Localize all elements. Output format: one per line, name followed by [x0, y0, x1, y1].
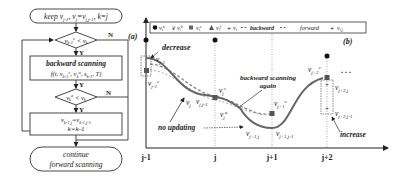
no-updating-dotted-arrow [204, 127, 243, 128]
svg-text:vja: vja [220, 110, 228, 120]
backward-again-label-1: backward scanning [240, 74, 297, 82]
increase-arrow [332, 117, 340, 132]
backward-again-pointer [238, 90, 262, 108]
svg-text:vj: vj [186, 98, 191, 108]
legend-item: forward [300, 25, 320, 31]
backward-again-label-2: again [260, 82, 276, 90]
point-u [325, 54, 330, 59]
plus-gray-icon: + [325, 81, 329, 89]
svg-text:vjc: vjc [219, 86, 227, 96]
end-text-2: forward scanning [50, 160, 103, 169]
update-k-text: k=k-1 [68, 125, 85, 133]
no-updating-arrow [170, 98, 184, 122]
circle-icon [153, 25, 158, 30]
ellipsis: . . . [341, 66, 351, 75]
point-c [325, 75, 330, 80]
x-tick: j+2 [320, 153, 332, 162]
x-tick: j-1 [140, 153, 150, 162]
svg-text:vj+2,j-1: vj+2,j-1 [335, 109, 352, 120]
svg-text:vj+2,j: vj+2,j [335, 83, 349, 94]
no-updating-label: no updating [158, 123, 196, 132]
x-ticks: j-1 j j+1 j+2 [140, 153, 332, 162]
x-tick: j+1 [265, 153, 277, 162]
svg-text:vj-1: vj-1 [156, 55, 165, 65]
plus-gray-icon: + [325, 105, 329, 113]
point-u [213, 38, 218, 43]
legend-item: vi [233, 25, 237, 32]
plus-gray-icon: + [330, 25, 334, 33]
no-label-2: N [106, 89, 111, 97]
yes-label-2: Y [79, 81, 84, 89]
flowchart: keep vj-1, vj=vj,j-1, k=j vk-1c < vk N Y… [22, 9, 138, 171]
end-text-1: continue [63, 150, 89, 159]
backward-dashed-curve [150, 64, 272, 114]
svg-text:vj+1,j-1: vj+1,j-1 [276, 129, 293, 140]
svg-text:vj+1,j: vj+1,j [246, 129, 260, 140]
legend-item: backward [250, 25, 275, 31]
increase-label: increase [340, 130, 367, 139]
backward-scanning-label: backward scanning [46, 59, 106, 68]
svg-text:vj,j-1: vj,j-1 [196, 97, 208, 108]
decrease-label: decrease [162, 43, 191, 52]
point-u [144, 38, 149, 43]
scanning-chart: viu ∨ vib vic vif + vi backward forward … [140, 18, 388, 162]
panel-label-a: (a) [128, 32, 138, 41]
no-label-1: N [108, 31, 113, 39]
plus-icon: + [227, 25, 231, 33]
point-c [213, 95, 218, 100]
point-c [270, 111, 275, 116]
panel-label-b: (b) [343, 37, 353, 46]
square-icon [189, 26, 193, 30]
svg-text:vj+2c: vj+2c [308, 65, 322, 75]
x-tick: j [213, 153, 217, 162]
point-c [144, 68, 149, 73]
figure-canvas: keep vj-1, vj=vj,j-1, k=j vk-1c < vk N Y… [0, 0, 398, 182]
svg-text:vj+1c: vj+1c [274, 99, 288, 109]
svg-text:vj-1c: vj-1c [148, 79, 160, 89]
